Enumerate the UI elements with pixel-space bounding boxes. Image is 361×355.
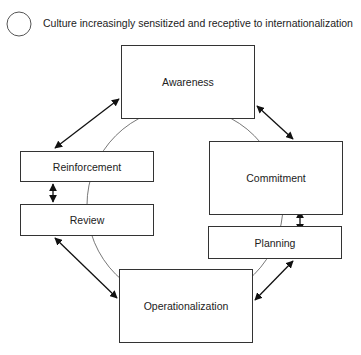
arrow-awareness-commitment bbox=[257, 106, 293, 139]
arrow-review-operationalization bbox=[55, 238, 117, 298]
node-reinforcement: Reinforcement bbox=[20, 151, 154, 182]
legend-label: Culture increasingly sensitized and rece… bbox=[43, 17, 353, 29]
node-awareness: Awareness bbox=[121, 45, 255, 119]
node-operationalization: Operationalization bbox=[119, 269, 253, 343]
node-planning: Planning bbox=[208, 226, 342, 259]
legend-circle-icon bbox=[7, 12, 31, 36]
node-review: Review bbox=[20, 204, 154, 236]
arrow-reinforcement-awareness bbox=[55, 99, 119, 148]
node-commitment: Commitment bbox=[209, 141, 343, 215]
